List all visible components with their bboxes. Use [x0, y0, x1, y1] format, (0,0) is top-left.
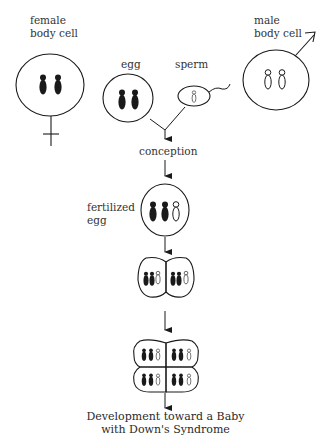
male-body-cell-label-line2: body cell [254, 27, 302, 40]
two-cell-stage [138, 258, 194, 298]
fertilized-egg-label-line2: egg [87, 214, 107, 227]
male-body-cell-label-line1: male [254, 14, 280, 27]
egg-label: egg [121, 58, 141, 71]
conception-label: conception [139, 145, 197, 158]
maternal-chromosome-icon [39, 75, 46, 95]
female-symbol-icon [43, 116, 59, 146]
egg-cell [103, 74, 153, 122]
maternal-chromosome-icon [131, 90, 138, 110]
merge-connector [150, 107, 185, 139]
caption-line1: Development toward a Baby [0, 410, 331, 423]
sperm-label: sperm [175, 58, 208, 71]
female-body-cell-label-line1: female [30, 14, 66, 27]
caption-line2: with Down's Syndrome [0, 423, 331, 436]
male-body-cell [243, 32, 315, 110]
paternal-chromosome-icon [279, 70, 285, 89]
diagram-canvas [0, 0, 331, 448]
maternal-chromosome-icon [161, 202, 168, 222]
paternal-chromosome-icon [265, 70, 271, 89]
fertilized-egg-label-line1: fertilized [87, 201, 135, 214]
maternal-chromosome-icon [149, 202, 156, 222]
maternal-chromosome-icon [54, 75, 61, 95]
sperm-cell [178, 84, 230, 106]
paternal-chromosome-icon [173, 202, 179, 221]
fertilized-egg-cell [141, 184, 189, 236]
female-body-cell [16, 54, 84, 146]
female-body-cell-label-line2: body cell [30, 27, 78, 40]
paternal-chromosome-icon [192, 91, 196, 103]
maternal-chromosome-icon [118, 90, 125, 110]
